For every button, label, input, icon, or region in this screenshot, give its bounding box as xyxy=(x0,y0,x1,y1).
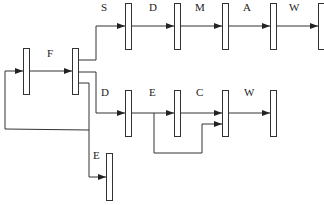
label-s: S xyxy=(101,1,107,13)
flow-diagram: F S D M A W D E C W E xyxy=(0,0,324,205)
label-c: C xyxy=(196,86,203,98)
block-top-4 xyxy=(271,4,277,50)
block-mid-4 xyxy=(271,91,277,137)
labels: F S D M A W D E C W E xyxy=(47,1,300,161)
arrow-s xyxy=(78,26,125,60)
blocks xyxy=(24,4,324,201)
label-a: A xyxy=(243,1,251,13)
block-top-1 xyxy=(126,4,132,50)
skip-arrow xyxy=(154,113,222,153)
block-split xyxy=(73,49,79,95)
label-f: F xyxy=(47,47,53,59)
label-m: M xyxy=(195,1,205,13)
label-top-d: D xyxy=(149,1,157,13)
block-top-3 xyxy=(223,4,229,50)
block-bottom xyxy=(107,154,113,201)
block-top-2 xyxy=(175,4,181,50)
block-mid-1 xyxy=(126,91,132,137)
block-top-5 xyxy=(319,4,324,50)
block-input xyxy=(24,49,30,95)
label-mid-e: E xyxy=(149,86,156,98)
block-mid-2 xyxy=(175,91,181,137)
label-mid-w: W xyxy=(244,86,255,98)
label-top-w: W xyxy=(289,1,300,13)
block-mid-3 xyxy=(223,91,229,137)
label-mid-d: D xyxy=(101,86,109,98)
label-bottom-e: E xyxy=(93,149,100,161)
